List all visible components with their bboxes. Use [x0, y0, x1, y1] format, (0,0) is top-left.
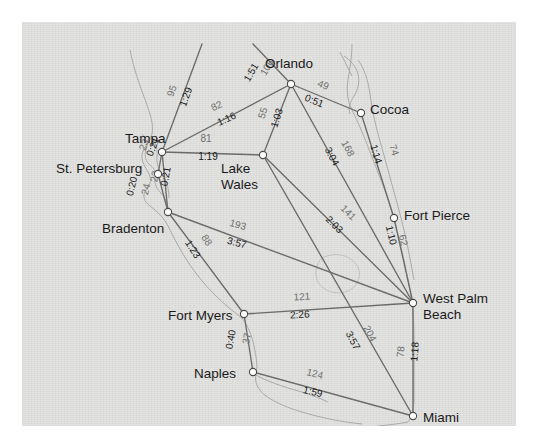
city-node-fort_pierce[interactable]: [390, 214, 397, 221]
time-label-tampa-orlando: 1:16: [215, 110, 238, 128]
time-label-orlando-lakewales: 1:03: [268, 107, 285, 129]
city-label-bradenton: Bradenton: [102, 221, 164, 236]
city-node-lake_wales[interactable]: [259, 151, 266, 158]
city-label-st_petersburg: St. Petersburg: [56, 161, 142, 176]
city-label-fort_myers: Fort Myers: [168, 308, 233, 323]
time-label-tampa-north: 1:29: [177, 85, 194, 107]
distance-label-bradenton-westpalm: 193: [228, 217, 247, 232]
distance-label-fortmyers-westpalm: 121: [293, 291, 311, 303]
time-label-lakewales-miami: 3:57: [344, 329, 363, 352]
city-node-st_petersburg[interactable]: [154, 170, 161, 177]
city-label-cocoa: Cocoa: [370, 102, 409, 117]
distance-label-orlando-westpalm: 168: [339, 138, 357, 158]
city-node-cocoa[interactable]: [357, 109, 364, 116]
distance-label-lakewales-miami: 204: [361, 323, 379, 343]
distance-label-fortmyers-naples: 37: [240, 332, 253, 345]
city-label-line: Fort Pierce: [404, 208, 470, 223]
time-label-naples-miami: 1:59: [302, 384, 324, 399]
city-label-line: Beach: [423, 307, 488, 323]
city-label-naples: Naples: [194, 366, 236, 381]
screenshot-root: 951:291061:51821:16811:19551:03490:51168…: [0, 0, 538, 447]
city-label-tampa: Tampa: [125, 131, 166, 146]
route-line-bradenton-westpalm[interactable]: [168, 212, 413, 303]
city-label-orlando: Orlando: [265, 56, 313, 71]
time-label-bradenton-fortmyers: 1:23: [183, 238, 203, 261]
distance-label-cocoa-fortpierce: 74: [387, 143, 401, 157]
city-label-west_palm: West PalmBeach: [423, 291, 488, 323]
distance-label-tampa-orlando: 82: [209, 98, 224, 113]
city-node-fort_myers[interactable]: [240, 310, 247, 317]
city-label-line: Orlando: [265, 56, 313, 71]
city-label-lake_wales: LakeWales: [221, 161, 258, 193]
city-node-bradenton[interactable]: [164, 208, 171, 215]
distance-label-naples-miami: 124: [305, 366, 324, 381]
distance-label-lakewales-westpalm: 141: [339, 203, 359, 223]
time-label-fortmyers-naples: 0:40: [223, 328, 237, 350]
city-label-fort_pierce: Fort Pierce: [404, 208, 470, 223]
distance-label-westpalm-miami: 78: [395, 345, 407, 357]
time-label-fortmyers-westpalm: 2:26: [290, 308, 310, 320]
route-line-cocoa-fortpierce[interactable]: [361, 113, 394, 218]
distance-label-orlando-cocoa: 49: [316, 78, 331, 93]
map-canvas[interactable]: 951:291061:51821:16811:19551:03490:51168…: [22, 22, 516, 426]
distance-label-orlando-lakewales: 55: [256, 106, 270, 120]
city-node-west_palm[interactable]: [409, 299, 416, 306]
time-label-orlando-cocoa: 0:51: [303, 92, 326, 110]
time-label-tampa-lakewales: 1:19: [198, 151, 218, 162]
florida-distance-map[interactable]: 951:291061:51821:16811:19551:03490:51168…: [22, 22, 516, 426]
city-node-miami[interactable]: [409, 412, 416, 419]
city-label-line: St. Petersburg: [56, 161, 142, 176]
city-label-line: Wales: [221, 177, 258, 193]
city-label-line: Bradenton: [102, 221, 164, 236]
city-node-naples[interactable]: [249, 368, 256, 375]
city-label-line: Fort Myers: [168, 308, 233, 323]
time-label-bradenton-westpalm: 3:57: [226, 235, 248, 251]
city-label-miami: Miami: [423, 410, 459, 425]
time-label-orlando-westpalm: 3:04: [323, 145, 342, 168]
distance-label-bradenton-fortmyers: 88: [199, 232, 215, 248]
route-line-fortmyers-westpalm[interactable]: [244, 303, 413, 314]
city-label-line: Cocoa: [370, 102, 409, 117]
route-lines[interactable]: [158, 44, 413, 416]
time-label-stpete-bradenton: 0:20: [124, 175, 139, 197]
time-label-westpalm-miami: 1:18: [408, 341, 421, 362]
city-label-line: Tampa: [125, 131, 166, 146]
city-label-line: Naples: [194, 366, 236, 381]
city-label-line: Lake: [221, 161, 258, 177]
city-node-tampa[interactable]: [158, 148, 165, 155]
city-node-orlando[interactable]: [287, 80, 294, 87]
distance-label-tampa-north: 95: [165, 83, 179, 98]
city-label-line: West Palm: [423, 291, 488, 307]
time-label-cocoa-fortpierce: 1:14: [368, 143, 384, 165]
distance-label-tampa-lakewales: 81: [200, 133, 212, 144]
city-label-line: Miami: [423, 410, 459, 425]
route-line-lakewales-miami[interactable]: [263, 155, 413, 416]
route-line-naples-miami[interactable]: [253, 372, 413, 416]
